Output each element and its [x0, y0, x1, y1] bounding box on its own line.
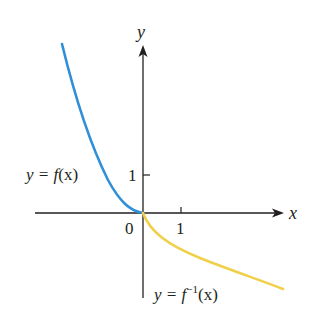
f-inverse-curve-label: y = f−1(x)	[152, 283, 218, 304]
finv-label-prefix: y =	[152, 285, 182, 304]
x-tick-label: 1	[176, 219, 185, 238]
f-inverse-curve	[143, 213, 283, 289]
y-tick-label: 1	[128, 166, 137, 185]
y-axis-label: y	[135, 22, 145, 42]
f-label-prefix: y =	[24, 165, 54, 184]
finv-label-arg: (x)	[198, 285, 218, 304]
chart-svg: y x 0 1 1 y = f(x) y = f−1(x)	[0, 0, 310, 325]
chart-figure: y x 0 1 1 y = f(x) y = f−1(x)	[0, 0, 310, 325]
x-axis-label: x	[288, 203, 297, 223]
finv-label-sup: −1	[186, 283, 198, 295]
f-label-arg: (x)	[58, 165, 78, 184]
f-curve-label: y = f(x)	[24, 165, 78, 184]
f-curve	[62, 44, 143, 213]
origin-label: 0	[125, 219, 134, 238]
